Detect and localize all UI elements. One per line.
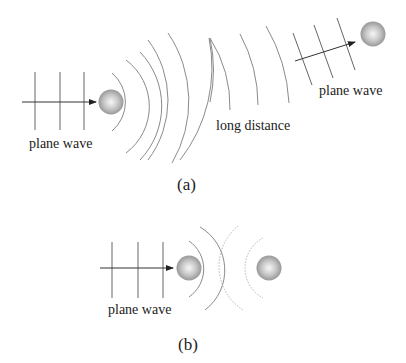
incident-label-b: plane wave (108, 302, 171, 317)
caption-b: (b) (178, 335, 198, 354)
scatterer-sphere (99, 90, 124, 115)
incident-plane-wave-b (100, 242, 173, 298)
arrow-icon (295, 42, 355, 61)
spherical-wavefronts-a (112, 26, 289, 163)
far-plane-wave-a (293, 18, 355, 85)
incident-label-a: plane wave (29, 136, 92, 151)
far-plane-wave-label: plane wave (319, 83, 382, 98)
scatterer-sphere-2 (257, 256, 282, 281)
receiver-sphere (361, 22, 386, 47)
incident-plane-wave-a (22, 72, 96, 130)
wave-scattering-diagram: plane wave long distance plane wave (a) … (0, 0, 406, 363)
scatterer-sphere-1 (177, 256, 202, 281)
panel-a: plane wave long distance plane wave (a) (22, 18, 386, 194)
panel-b: plane wave (b) (100, 226, 282, 354)
caption-a: (a) (177, 175, 196, 194)
long-distance-label: long distance (216, 118, 290, 133)
